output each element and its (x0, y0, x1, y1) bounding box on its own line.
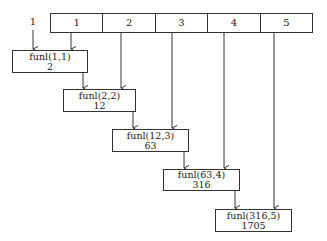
call-box-1: funl(1,1) 2 (12, 50, 88, 73)
call-result: 1705 (241, 221, 265, 231)
initial-input-label: 1 (28, 17, 38, 27)
call-box-3: funl(12,3) 63 (112, 129, 189, 152)
input-array: 1 2 3 4 5 (50, 13, 313, 33)
call-box-2: funl(2,2) 12 (63, 89, 136, 112)
call-expression: funl(12,3) (127, 131, 174, 141)
call-expression: funl(316,5) (227, 211, 280, 221)
array-cell-1: 1 (51, 14, 103, 32)
call-box-4: funl(63,4) 316 (163, 169, 240, 191)
call-expression: funl(1,1) (29, 52, 70, 62)
call-result: 63 (144, 141, 156, 151)
call-expression: funl(2,2) (79, 91, 120, 101)
array-cell-2: 2 (103, 14, 155, 32)
call-result: 316 (192, 180, 210, 190)
call-chain-diagram: 1 1 2 3 4 5 funl(1,1) 2 funl(2,2) 12 fun… (0, 0, 327, 241)
array-cell-3: 3 (156, 14, 208, 32)
call-box-5: funl(316,5) 1705 (215, 209, 292, 232)
array-cell-4: 4 (208, 14, 260, 32)
array-cell-5: 5 (261, 14, 312, 32)
arrows-layer (0, 0, 327, 241)
call-result: 2 (47, 62, 53, 72)
call-result: 12 (93, 101, 105, 111)
